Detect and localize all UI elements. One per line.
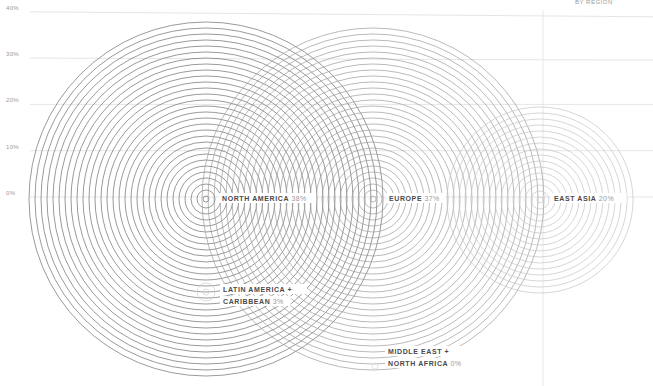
ring xyxy=(41,34,371,364)
chart-subtitle: BY REGION xyxy=(575,0,613,5)
region-label: EUROPE 37% xyxy=(389,195,440,202)
circle-group-north-america xyxy=(29,22,383,376)
y-tick-label: 40% xyxy=(6,5,19,11)
ring xyxy=(191,184,221,214)
circle-groups xyxy=(29,22,633,376)
region-value: 0% xyxy=(448,360,461,367)
gridline xyxy=(30,58,653,60)
ring xyxy=(525,185,555,215)
ring xyxy=(29,22,383,376)
region-label: MIDDLE EAST + xyxy=(388,348,449,355)
region-value: 37% xyxy=(422,195,440,202)
ring xyxy=(364,190,382,208)
region-name: LATIN AMERICA + xyxy=(223,286,292,293)
y-tick-label: 30% xyxy=(6,51,19,57)
region-name: MIDDLE EAST + xyxy=(388,348,449,355)
region-label: NORTH AFRICA 0% xyxy=(388,360,461,367)
region-name: CARIBBEAN xyxy=(223,298,270,305)
ring xyxy=(358,184,388,214)
region-value: 38% xyxy=(289,195,307,202)
ring xyxy=(197,190,215,208)
region-name: NORTH AMERICA xyxy=(222,195,289,202)
region-labels: NORTH AMERICA 38%EUROPE 37%EAST ASIA 20%… xyxy=(219,193,627,368)
region-name: EAST ASIA xyxy=(554,195,596,202)
concentric-circle-chart: 40%30%20%10%0% NORTH AMERICA 38%EUROPE 3… xyxy=(0,0,653,386)
region-value: 20% xyxy=(596,195,614,202)
region-label: EAST ASIA 20% xyxy=(554,195,614,202)
region-value: 3% xyxy=(270,298,283,305)
region-name: EUROPE xyxy=(389,195,422,202)
y-axis-ticks: 40%30%20%10%0% xyxy=(6,5,19,196)
y-tick-label: 20% xyxy=(6,97,19,103)
y-tick-label: 0% xyxy=(6,190,16,196)
region-label: CARIBBEAN 3% xyxy=(223,298,284,305)
ring xyxy=(531,191,549,209)
region-name: NORTH AFRICA xyxy=(388,360,448,367)
region-label: LATIN AMERICA + xyxy=(223,286,292,293)
region-label: NORTH AMERICA 38% xyxy=(222,195,307,202)
y-tick-label: 10% xyxy=(6,144,19,150)
gridline xyxy=(30,12,653,17)
